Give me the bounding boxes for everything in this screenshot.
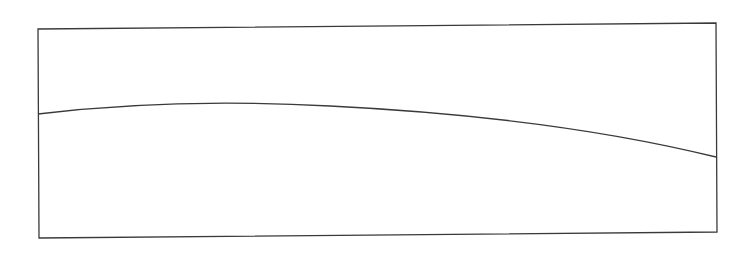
- frame-quadrilateral: [38, 23, 717, 238]
- diagram-svg: [0, 0, 745, 265]
- curved-line: [38, 103, 716, 157]
- diagram-canvas: [0, 0, 745, 265]
